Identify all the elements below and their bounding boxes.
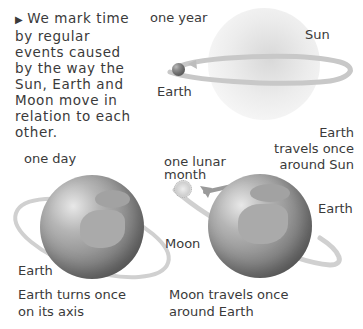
earth-label-day: Earth	[18, 263, 53, 279]
period-label-lunar-month: one lunar month	[164, 155, 226, 181]
period-label-one-year: one year	[150, 10, 207, 26]
earth-label-month: Earth	[318, 201, 353, 217]
moon	[174, 180, 192, 198]
caption-day: Earth turns once on its axis	[18, 286, 126, 320]
earth-globe-month	[208, 174, 312, 278]
earth-label-year: Earth	[157, 84, 192, 100]
moon-label: Moon	[165, 236, 200, 252]
earth-orbit-around-sun	[170, 56, 350, 83]
caption-month: Moon travels once around Earth	[169, 286, 288, 320]
sun-label: Sun	[305, 27, 330, 43]
period-label-one-day: one day	[24, 151, 76, 167]
caption-year: Earth travels once around Sun	[274, 125, 354, 173]
earth-small	[172, 63, 185, 76]
earth-globe-day	[40, 175, 144, 279]
